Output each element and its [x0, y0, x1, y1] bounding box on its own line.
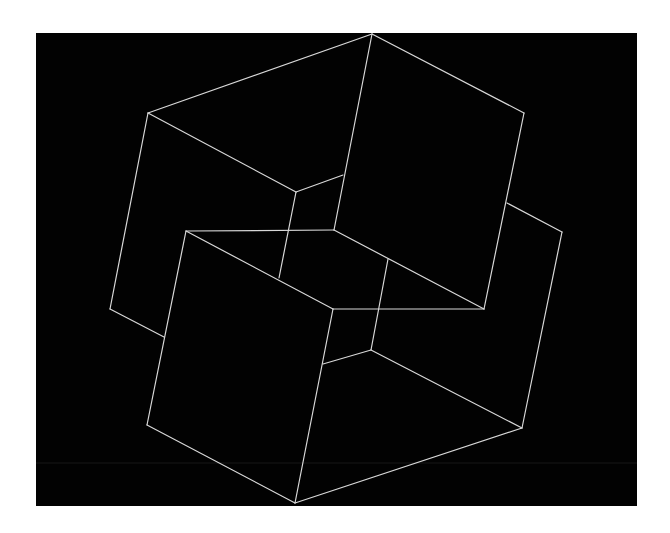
artwork-canvas — [0, 0, 670, 533]
line-artwork — [0, 0, 670, 533]
black-panel — [36, 33, 637, 506]
